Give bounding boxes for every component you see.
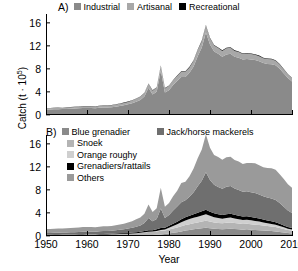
x-tick-mark <box>251 110 252 115</box>
x-tick-label: 1950 <box>34 238 57 250</box>
y-tick-mark <box>46 45 50 46</box>
legend-item-industrial[interactable]: Industrial <box>74 2 121 12</box>
y-tick-label: 16 <box>29 17 41 29</box>
y-tick-label: 12 <box>29 40 41 52</box>
x-tick-mark <box>251 231 252 236</box>
y-tick-label: 4 <box>35 86 41 98</box>
y-tick-label: 8 <box>35 63 41 75</box>
x-tick-mark <box>210 231 211 236</box>
y-axis-label: Catch (t · 105) <box>16 38 28 158</box>
y-tick-mark <box>46 68 50 69</box>
x-tick-label: 1960 <box>75 238 98 250</box>
y-tick-label: 12 <box>29 161 41 173</box>
legend-panel-a: A) Industrial Artisanal Recreational <box>58 1 247 12</box>
x-tick-mark <box>87 110 88 115</box>
legend-label-recreational: Recreational <box>189 2 240 12</box>
panel-b-plot: 0481216 <box>46 135 292 236</box>
x-tick-label: 1980 <box>157 238 180 250</box>
x-axis-label: Year <box>46 253 292 265</box>
y-tick-mark <box>46 189 50 190</box>
x-tick-mark <box>292 110 293 115</box>
x-tick-mark <box>46 110 47 115</box>
x-tick-mark <box>292 231 293 236</box>
y-axis-label-close: ) <box>17 67 28 70</box>
x-tick-mark <box>210 110 211 115</box>
legend-item-artisanal[interactable]: Artisanal <box>127 2 172 12</box>
panel-a-tag: A) <box>58 1 69 13</box>
y-tick-mark <box>46 212 50 213</box>
x-tick-mark <box>128 231 129 236</box>
panel-b-axes-frame <box>46 135 292 236</box>
x-tick-mark <box>87 231 88 236</box>
y-tick-label: 4 <box>35 207 41 219</box>
y-tick-label: 0 <box>35 109 41 121</box>
y-tick-label: 8 <box>35 184 41 196</box>
panel-a-plot: 0481216 <box>46 14 292 115</box>
legend-label-artisanal: Artisanal <box>137 2 172 12</box>
legend-label-industrial: Industrial <box>84 2 121 12</box>
x-tick-label: 2000 <box>239 238 262 250</box>
x-tick-label: 2010 <box>280 238 298 250</box>
y-tick-mark <box>46 22 50 23</box>
legend-item-recreational[interactable]: Recreational <box>179 2 240 12</box>
x-tick-mark <box>46 231 47 236</box>
x-tick-mark <box>169 231 170 236</box>
y-tick-mark <box>46 143 50 144</box>
y-axis-label-text: Catch (t · 10 <box>17 74 28 129</box>
y-tick-label: 16 <box>29 138 41 150</box>
y-tick-mark <box>46 166 50 167</box>
swatch-industrial <box>74 3 81 10</box>
figure-root: Catch (t · 105) A) Industrial Artisanal … <box>0 0 298 271</box>
x-tick-label: 1990 <box>198 238 221 250</box>
swatch-artisanal <box>127 3 134 10</box>
x-tick-label: 1970 <box>116 238 139 250</box>
x-tick-mark <box>169 110 170 115</box>
y-tick-mark <box>46 91 50 92</box>
swatch-recreational <box>179 3 186 10</box>
x-tick-mark <box>128 110 129 115</box>
y-axis-label-exponent: 5 <box>16 70 23 74</box>
panel-a-axes-frame <box>46 14 292 115</box>
